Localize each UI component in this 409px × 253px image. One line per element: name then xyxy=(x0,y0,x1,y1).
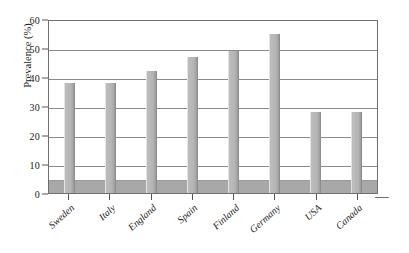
x-axis-label-slot: Germany xyxy=(254,200,295,250)
y-axis-tick-label: 40 xyxy=(30,73,40,84)
x-axis-tick-label: England xyxy=(126,202,159,233)
bar xyxy=(187,57,198,193)
y-axis-tick-label: 10 xyxy=(30,160,40,171)
bar-slot xyxy=(49,21,90,193)
bar-slot xyxy=(254,21,295,193)
y-axis-tick-label: 50 xyxy=(30,44,40,55)
x-axis-label-slot: Italy xyxy=(89,200,130,250)
bar-group xyxy=(49,21,377,193)
bar-slot xyxy=(172,21,213,193)
y-axis-tick-group: 6050403020100 xyxy=(0,0,48,214)
x-axis-label-slot: England xyxy=(131,200,172,250)
bar-slot xyxy=(336,21,377,193)
bar-chart: Prevalence (%) 6050403020100 SwedenItaly… xyxy=(0,0,409,253)
bar xyxy=(64,83,75,193)
x-axis-tick-label: Canada xyxy=(334,202,365,231)
bar xyxy=(146,71,157,193)
bar-slot xyxy=(90,21,131,193)
x-axis-label-slot: USA xyxy=(296,200,337,250)
bar xyxy=(310,112,321,193)
bar-slot xyxy=(295,21,336,193)
bar-slot xyxy=(131,21,172,193)
x-axis-label-slot: Spain xyxy=(172,200,213,250)
x-axis-label-group: SwedenItalyEnglandSpainFinlandGermanyUSA… xyxy=(48,200,378,250)
y-axis-tick-label: 20 xyxy=(30,131,40,142)
x-axis-tick-label: Spain xyxy=(175,202,199,225)
x-axis-tick-label: Italy xyxy=(96,202,117,222)
bar xyxy=(351,112,362,193)
x-axis-label-slot: Sweden xyxy=(48,200,89,250)
bar xyxy=(105,83,116,193)
plot-area xyxy=(48,20,378,194)
y-axis-tick-label: 60 xyxy=(30,15,40,26)
x-axis-label-slot: Canada xyxy=(337,200,378,250)
bar xyxy=(228,51,239,193)
x-axis-tick-label: USA xyxy=(302,202,323,222)
x-axis-tick-label: Sweden xyxy=(46,202,76,231)
bar-slot xyxy=(213,21,254,193)
x-axis-tick-label: Finland xyxy=(210,202,241,231)
y-axis-tick-label: 0 xyxy=(35,189,40,200)
y-axis-tick-label: 30 xyxy=(30,102,40,113)
bar xyxy=(269,34,280,194)
